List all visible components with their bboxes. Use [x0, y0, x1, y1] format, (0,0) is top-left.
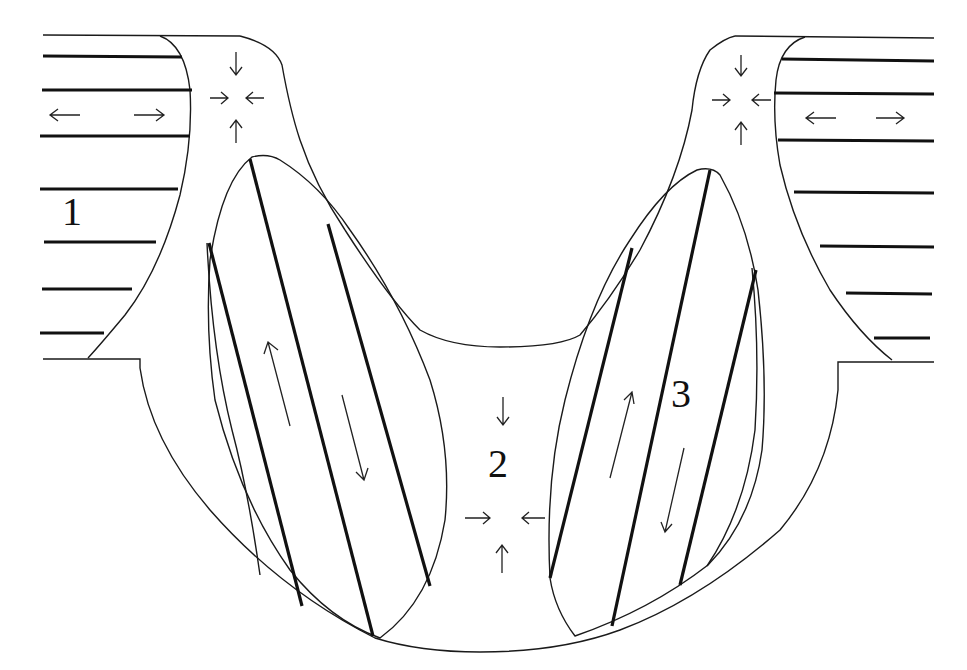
region-label-3: 3	[671, 374, 691, 414]
region-label-2: 2	[488, 444, 508, 484]
arrow-right-icon	[210, 92, 228, 104]
shear-arrow-down-icon	[661, 448, 684, 532]
left-lens	[207, 156, 447, 638]
arrow-group-left-top	[50, 52, 264, 143]
diagram-canvas: 1 2 3	[0, 0, 967, 670]
arrow-down-icon	[497, 397, 509, 425]
arrow-right-icon	[712, 94, 730, 106]
arrow-up-icon	[496, 545, 508, 573]
arrow-up-icon	[735, 122, 747, 145]
right-layer-boundary	[775, 37, 892, 360]
left-layer-boundary	[88, 36, 191, 358]
arrow-left-icon	[246, 92, 264, 104]
shear-arrow-up-icon	[610, 392, 634, 478]
arrow-right-icon	[465, 512, 490, 524]
diagram-svg	[0, 0, 967, 670]
right-lens	[549, 169, 764, 636]
arrow-left-icon	[522, 512, 545, 524]
shear-arrow-up-icon	[264, 342, 290, 426]
region-label-1: 1	[62, 192, 82, 232]
arrow-right-icon	[876, 112, 904, 124]
arrow-group-right-top	[712, 55, 904, 145]
arrow-left-icon	[752, 94, 771, 106]
arrow-right-icon	[134, 109, 164, 121]
arrow-up-icon	[230, 120, 242, 143]
arrow-left-icon	[806, 112, 836, 124]
shear-arrow-down-icon	[342, 395, 368, 480]
outer-outline	[43, 35, 934, 652]
right-horizontal-layers	[774, 59, 934, 338]
arrow-left-icon	[50, 109, 80, 121]
arrow-down-icon	[230, 52, 242, 75]
arrow-down-icon	[735, 55, 747, 76]
